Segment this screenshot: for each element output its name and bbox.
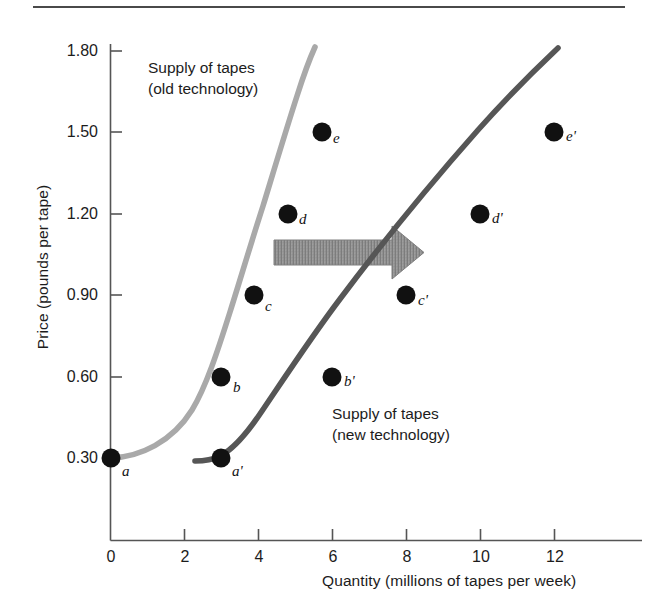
x-axis-title: Quantity (millions of tapes per week) bbox=[322, 572, 576, 590]
data-points-old bbox=[102, 123, 332, 468]
annotation-old-technology: Supply of tapes (old technology) bbox=[148, 58, 258, 100]
data-point-d-prime bbox=[471, 205, 490, 224]
y-tick-label-1-80: 1.80 bbox=[46, 42, 98, 60]
y-tick-label-1-20: 1.20 bbox=[46, 205, 98, 223]
annotation-new-line1: Supply of tapes bbox=[332, 404, 450, 425]
data-point-c bbox=[245, 286, 264, 305]
y-tick-label-0-30: 0.30 bbox=[46, 449, 98, 467]
axis-lines bbox=[111, 44, 643, 541]
point-label-a-prime: a' bbox=[232, 463, 243, 480]
point-label-e-prime: e' bbox=[566, 128, 576, 145]
x-tick-label-2: 2 bbox=[168, 548, 202, 566]
annotation-old-line1: Supply of tapes bbox=[148, 58, 258, 79]
plot-area bbox=[0, 0, 651, 614]
point-label-b: b bbox=[233, 379, 241, 396]
y-tick-label-1-50: 1.50 bbox=[46, 123, 98, 141]
data-point-b bbox=[212, 368, 231, 387]
data-point-a-prime bbox=[212, 449, 231, 468]
point-label-e: e bbox=[333, 130, 340, 147]
data-point-e bbox=[313, 123, 332, 142]
point-label-d: d bbox=[299, 211, 307, 228]
data-point-a bbox=[102, 449, 121, 468]
x-tick-label-8: 8 bbox=[390, 548, 424, 566]
x-tick-label-10: 10 bbox=[464, 548, 498, 566]
x-tick-label-6: 6 bbox=[316, 548, 350, 566]
data-point-e-prime bbox=[545, 123, 564, 142]
annotation-old-line2: (old technology) bbox=[148, 79, 258, 100]
point-label-d-prime: d' bbox=[492, 210, 503, 227]
x-tick-label-12: 12 bbox=[538, 548, 572, 566]
shift-arrow-icon bbox=[274, 226, 424, 279]
y-tick-label-0-60: 0.60 bbox=[46, 368, 98, 386]
x-tick-label-4: 4 bbox=[242, 548, 276, 566]
supply-curve-figure: Price (pounds per tape) Quantity (millio… bbox=[0, 0, 651, 614]
annotation-new-technology: Supply of tapes (new technology) bbox=[332, 404, 450, 446]
data-point-d bbox=[279, 205, 298, 224]
y-tick-marks bbox=[111, 51, 123, 458]
point-label-c: c bbox=[265, 298, 272, 315]
x-tick-marks bbox=[185, 529, 555, 541]
data-point-c-prime bbox=[397, 286, 416, 305]
y-tick-label-0-90: 0.90 bbox=[46, 286, 98, 304]
point-label-a: a bbox=[122, 463, 130, 480]
point-label-c-prime: c' bbox=[418, 292, 428, 309]
point-label-b-prime: b' bbox=[344, 373, 355, 390]
y-axis-title: Price (pounds per tape) bbox=[34, 147, 52, 387]
x-tick-label-0: 0 bbox=[94, 548, 128, 566]
data-point-b-prime bbox=[323, 368, 342, 387]
annotation-new-line2: (new technology) bbox=[332, 425, 450, 446]
